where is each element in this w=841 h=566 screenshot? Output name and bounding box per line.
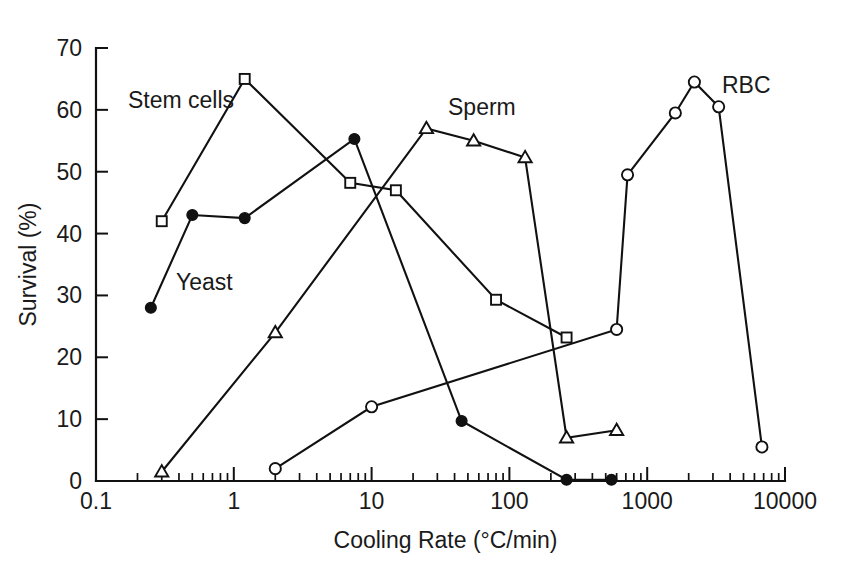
marker-open-circle: [366, 401, 377, 412]
y-tick-label: 40: [56, 221, 82, 247]
y-tick-label: 20: [56, 344, 82, 370]
marker-open-square: [240, 74, 250, 84]
series-label-rbc: RBC: [722, 72, 771, 98]
marker-open-triangle: [420, 122, 433, 133]
x-axis-title: Cooling Rate (°C/min): [334, 527, 558, 553]
y-axis-tick-labels: 010203040506070: [56, 35, 82, 494]
marker-filled-circle: [239, 213, 250, 224]
y-axis-ticks: [96, 48, 108, 419]
marker-open-square: [157, 216, 167, 226]
marker-open-triangle: [610, 424, 623, 435]
y-axis-title: Survival (%): [15, 203, 41, 327]
series-label-sperm: Sperm: [448, 94, 516, 120]
y-tick-label: 70: [56, 35, 82, 61]
x-axis-tick-labels: 0.1110100100010000: [80, 488, 817, 514]
y-tick-label: 0: [69, 468, 82, 494]
series-yeast: [145, 134, 616, 486]
y-tick-label: 10: [56, 406, 82, 432]
x-tick-label: 10000: [753, 488, 817, 514]
x-tick-label: 1000: [622, 488, 673, 514]
data-series-layer: [145, 74, 767, 485]
y-tick-label: 60: [56, 97, 82, 123]
marker-open-square: [562, 332, 572, 342]
marker-open-square: [491, 295, 501, 305]
x-tick-label: 0.1: [80, 488, 112, 514]
series-label-stem-cells: Stem cells: [128, 87, 234, 113]
survival-vs-cooling-rate-chart: 0.1110100100010000 010203040506070 Cooli…: [0, 0, 841, 566]
series-line: [275, 82, 762, 469]
marker-open-circle: [689, 76, 700, 87]
y-tick-label: 50: [56, 159, 82, 185]
series-rbc: [270, 76, 768, 474]
marker-open-circle: [622, 169, 633, 180]
series-sperm: [155, 122, 623, 477]
marker-open-circle: [756, 441, 767, 452]
x-tick-label: 100: [490, 488, 528, 514]
chart-figure: 0.1110100100010000 010203040506070 Cooli…: [0, 0, 841, 566]
marker-filled-circle: [606, 474, 617, 485]
series-annotations-layer: Stem cellsYeastSpermRBC: [128, 72, 771, 295]
marker-filled-circle: [145, 302, 156, 313]
x-tick-label: 10: [359, 488, 385, 514]
y-tick-label: 30: [56, 282, 82, 308]
series-label-yeast: Yeast: [176, 269, 233, 295]
marker-open-square: [345, 178, 355, 188]
marker-open-circle: [670, 107, 681, 118]
marker-open-circle: [713, 101, 724, 112]
marker-open-circle: [270, 463, 281, 474]
marker-filled-circle: [561, 474, 572, 485]
marker-filled-circle: [349, 134, 360, 145]
series-line: [162, 128, 617, 471]
marker-open-square: [391, 185, 401, 195]
marker-filled-circle: [456, 416, 467, 427]
x-tick-label: 1: [227, 488, 240, 514]
marker-open-circle: [611, 324, 622, 335]
marker-filled-circle: [187, 210, 198, 221]
